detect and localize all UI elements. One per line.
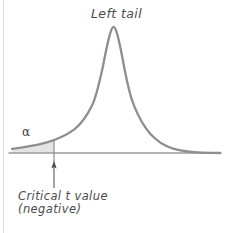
- left-tail-distribution-figure: Left tail α Critical t value (negative): [0, 0, 228, 233]
- caption-line-secondary: (negative): [18, 203, 108, 215]
- critical-value-caption: Critical t value (negative): [18, 190, 108, 215]
- caption-line-primary: Critical t value: [18, 190, 108, 202]
- chart-title: Left tail: [91, 7, 142, 20]
- alpha-symbol-label: α: [22, 126, 31, 139]
- t-distribution-curve: [12, 27, 220, 153]
